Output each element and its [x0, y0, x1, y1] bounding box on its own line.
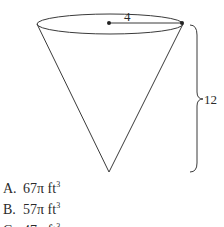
- height-brace: [190, 25, 203, 172]
- edge-point: [180, 21, 184, 25]
- height-label: 12: [204, 92, 217, 107]
- cone-diagram: 4 12: [0, 0, 224, 175]
- choice-letter: A.: [3, 180, 23, 197]
- choice-c[interactable]: C.47π ft3: [3, 218, 60, 227]
- choice-value: 47π ft: [23, 223, 56, 227]
- choice-exponent: 3: [56, 201, 60, 210]
- cone-left-side: [37, 24, 109, 172]
- answer-choices: A.67π ft3 B.57π ft3 C.47π ft3: [3, 176, 60, 227]
- choice-exponent: 3: [56, 222, 60, 227]
- choice-a[interactable]: A.67π ft3: [3, 176, 60, 197]
- radius-label: 4: [124, 9, 131, 24]
- choice-value: 67π ft: [23, 181, 56, 196]
- choice-letter: C.: [3, 222, 23, 227]
- center-point: [107, 21, 111, 25]
- choice-b[interactable]: B.57π ft3: [3, 197, 60, 218]
- choice-exponent: 3: [56, 180, 60, 189]
- choice-letter: B.: [3, 201, 23, 218]
- choice-value: 57π ft: [23, 202, 56, 217]
- cone-right-side: [109, 24, 183, 172]
